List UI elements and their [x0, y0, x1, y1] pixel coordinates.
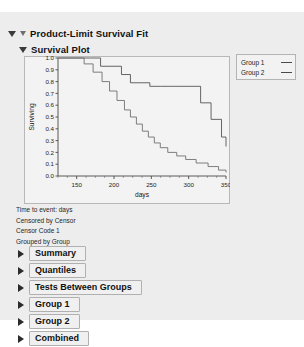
y-axis-tick-label: 0.2 [45, 149, 54, 156]
y-axis-tick-label: 0.4 [45, 125, 54, 132]
disclosure-triangle-right-icon[interactable] [18, 267, 24, 275]
survival-curve-group-1 [58, 58, 226, 147]
disclosure-survival-plot[interactable]: Survival Plot [19, 44, 90, 55]
x-axis-tick-label: 250 [146, 181, 157, 188]
y-axis-title: Surviving [28, 103, 36, 130]
section-row-group-2[interactable]: Group 2 [18, 313, 142, 330]
info-line-censor-code: Censor Code 1 [16, 226, 216, 237]
panel-title: Product-Limit Survival Fit [30, 28, 148, 39]
survival-plot-chart: 0.00.10.20.30.40.50.60.70.80.91.01502002… [24, 56, 230, 204]
y-axis-tick-label: 0.5 [45, 113, 54, 120]
legend-item[interactable]: Group 2 [241, 67, 292, 77]
disclosure-product-limit-survival-fit[interactable]: Product-Limit Survival Fit [8, 28, 148, 39]
legend-line-swatch [281, 62, 292, 63]
y-axis-tick-label: 0.3 [45, 137, 54, 144]
x-axis-tick-label: 200 [109, 181, 120, 188]
section-row-group-1[interactable]: Group 1 [18, 296, 142, 313]
x-axis-tick-label: 350 [221, 181, 230, 188]
survival-curve-group-2 [58, 58, 226, 172]
disclosure-triangle-right-icon[interactable] [18, 318, 24, 326]
section-label[interactable]: Combined [29, 331, 89, 346]
section-row-tests-between-groups[interactable]: Tests Between Groups [18, 279, 142, 296]
chart-legend: Group 1 Group 2 [236, 54, 296, 80]
disclosure-triangle-right-icon[interactable] [18, 335, 24, 343]
y-axis-tick-label: 0.1 [45, 160, 54, 167]
disclosure-triangle-right-icon[interactable] [18, 301, 24, 309]
section-row-summary[interactable]: Summary [18, 245, 142, 262]
y-axis-tick-label: 0.0 [45, 172, 54, 179]
section-row-quantiles[interactable]: Quantiles [18, 262, 142, 279]
disclosure-triangle-right-icon[interactable] [18, 250, 24, 258]
y-axis-tick-label: 0.8 [45, 78, 54, 85]
y-axis-tick-label: 0.6 [45, 101, 54, 108]
disclosure-triangle-right-icon[interactable] [18, 284, 24, 292]
y-axis-tick-label: 0.9 [45, 66, 54, 73]
section-label[interactable]: Quantiles [29, 263, 86, 278]
section-label[interactable]: Group 2 [29, 314, 80, 329]
legend-label: Group 2 [241, 69, 265, 76]
info-line-time-to-event: Time to event: days [16, 205, 216, 216]
section-label[interactable]: Summary [29, 246, 86, 261]
report-panel: Product-Limit Survival Fit Survival Plot… [0, 12, 304, 320]
y-axis-tick-label: 1.0 [45, 56, 54, 61]
section-label[interactable]: Group 1 [29, 297, 80, 312]
x-axis-tick-label: 150 [72, 181, 83, 188]
x-axis-tick-label: 300 [184, 181, 195, 188]
disclosure-triangle-down-icon[interactable] [19, 47, 27, 53]
subsection-title: Survival Plot [31, 44, 90, 55]
y-axis-tick-label: 0.7 [45, 90, 54, 97]
disclosure-triangle-down-icon[interactable] [8, 31, 16, 37]
info-line-censored-by: Censored by Censor [16, 216, 216, 227]
section-label[interactable]: Tests Between Groups [29, 280, 142, 295]
disclosure-triangle-down-secondary-icon[interactable] [20, 31, 26, 36]
section-row-combined[interactable]: Combined [18, 330, 142, 347]
x-axis-title: days [135, 191, 150, 199]
plot-info-block: Time to event: days Censored by Censor C… [16, 205, 216, 247]
legend-label: Group 1 [241, 59, 265, 66]
legend-line-swatch [281, 72, 292, 73]
collapsed-sections-list: Summary Quantiles Tests Between Groups G… [18, 245, 142, 347]
legend-item[interactable]: Group 1 [241, 57, 292, 67]
